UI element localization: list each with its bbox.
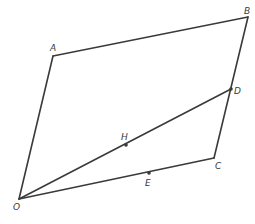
segment-CO: [19, 158, 214, 199]
label-B: B: [244, 6, 250, 16]
label-C: C: [215, 161, 222, 171]
point-dot-D: [229, 87, 233, 91]
point-dot-H: [124, 143, 128, 147]
geometry-diagram: O A B C D H E: [0, 0, 255, 224]
point-dot-E: [147, 171, 151, 175]
label-A: A: [49, 43, 56, 53]
label-H: H: [121, 132, 128, 142]
segment-OA: [19, 56, 53, 199]
label-O: O: [13, 202, 20, 212]
label-E: E: [145, 178, 151, 188]
label-D: D: [234, 86, 241, 96]
segment-AB: [53, 17, 248, 56]
point-labels: O A B C D H E: [13, 6, 250, 212]
